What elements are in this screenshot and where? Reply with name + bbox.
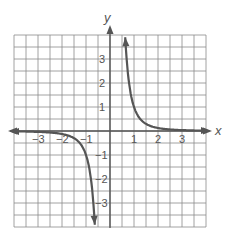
y-tick-label: −3 — [95, 197, 108, 209]
y-tick-label: 3 — [99, 53, 105, 65]
y-axis-label: y — [103, 10, 112, 25]
x-tick-label: −1 — [80, 133, 93, 145]
x-tick-label: −3 — [32, 133, 45, 145]
y-tick-label: −1 — [95, 149, 108, 161]
graph: −3−2−1123321−1−2−3 x y — [0, 0, 232, 238]
x-tick-label: 3 — [179, 133, 185, 145]
curve-down-arrow-icon — [91, 216, 98, 225]
y-tick-label: 1 — [99, 101, 105, 113]
y-tick-label: −2 — [95, 173, 108, 185]
curve-up-arrow-icon — [122, 37, 129, 46]
y-tick-label: 2 — [99, 77, 105, 89]
axes — [8, 25, 212, 228]
x-axis-label: x — [214, 123, 222, 138]
y-axis-up-arrow-icon — [107, 25, 114, 34]
x-tick-label: 2 — [155, 133, 161, 145]
x-tick-label: 1 — [131, 133, 137, 145]
